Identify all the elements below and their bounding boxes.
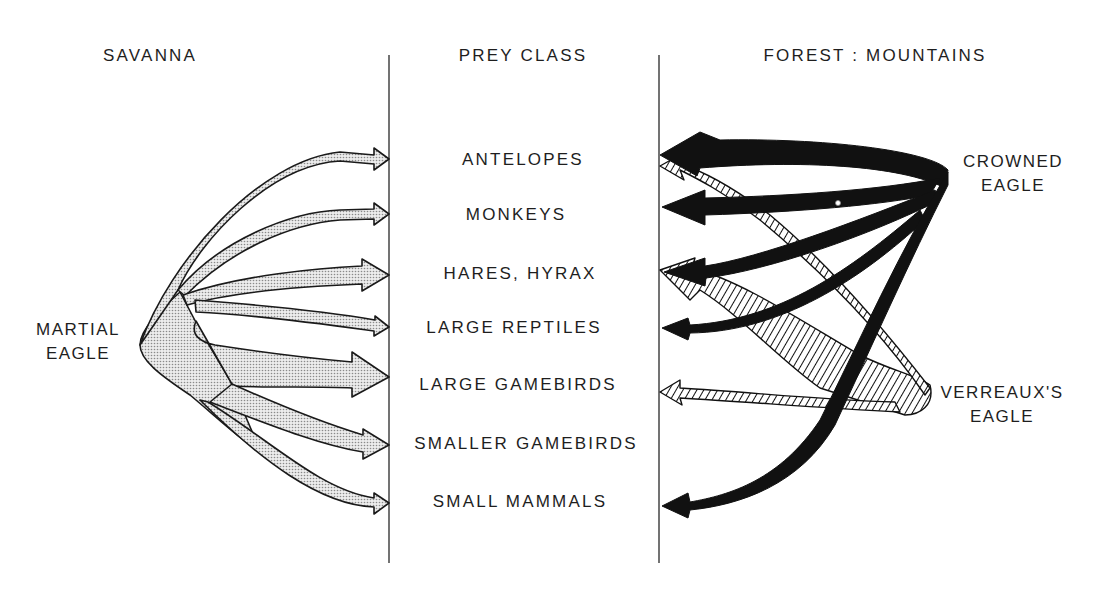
verreaux-eagle-label: VERREAUX'S EAGLE: [940, 381, 1063, 429]
header-savanna: SAVANNA: [103, 46, 197, 66]
martial-eagle-line1: MARTIAL: [36, 318, 120, 342]
crowned-eagle-line1: CROWNED: [963, 150, 1063, 174]
prey-label-antelopes: ANTELOPES: [462, 150, 584, 170]
prey-label-large-reptiles: LARGE REPTILES: [426, 318, 601, 338]
prey-label-large-gamebirds: LARGE GAMEBIRDS: [419, 375, 616, 395]
header-forest-mountains: FOREST : MOUNTAINS: [763, 46, 986, 66]
prey-label-monkeys: MONKEYS: [466, 205, 566, 225]
header-prey-class: PREY CLASS: [459, 46, 587, 66]
crowned-eagle-label: CROWNED EAGLE: [963, 150, 1063, 198]
crowned-eagle-line2: EAGLE: [963, 174, 1063, 198]
verreaux-eagle-line2: EAGLE: [940, 405, 1063, 429]
prey-label-smaller-gamebirds: SMALLER GAMEBIRDS: [414, 434, 638, 454]
martial-eagle-line2: EAGLE: [36, 342, 120, 366]
martial-eagle-label: MARTIAL EAGLE: [36, 318, 120, 366]
prey-label-small-mammals: SMALL MAMMALS: [433, 492, 607, 512]
martial-eagle-arrows: [140, 148, 389, 514]
verreaux-eagle-line1: VERREAUX'S: [940, 381, 1063, 405]
small-circle-mark: [836, 201, 841, 206]
prey-label-hares-hyrax: HARES, HYRAX: [444, 264, 597, 284]
